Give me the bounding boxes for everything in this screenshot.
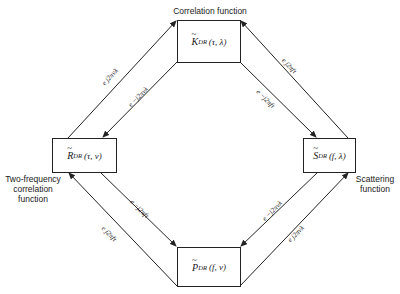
node-two-frequency-correlation: ~ R DR(τ, ν) xyxy=(52,138,117,173)
node-args: (f, λ) xyxy=(329,151,346,161)
node-subscript: DR xyxy=(198,264,207,271)
caption-line: function xyxy=(350,184,400,194)
node-scattering-function: ~ S DR(f, λ) xyxy=(303,138,356,173)
node-symbol: ~ K xyxy=(192,36,199,47)
node-p-dr: ~ P DR(f, ν) xyxy=(177,247,241,287)
node-subscript: DR xyxy=(73,152,82,159)
node-subscript: DR xyxy=(318,152,327,159)
node-symbol: ~ S xyxy=(313,150,318,161)
node-correlation-function: ~ K DR(τ, λ) xyxy=(177,20,241,63)
caption-line: Two-frequency xyxy=(2,174,64,184)
node-subscript: DR xyxy=(198,38,207,45)
tilde-mark: ~ xyxy=(192,29,197,39)
caption-scattering-function: Scattering function xyxy=(350,174,400,194)
caption-two-frequency-correlation-function: Two-frequency correlation function xyxy=(2,174,64,204)
edge-p-to-r xyxy=(69,173,177,286)
tilde-mark: ~ xyxy=(67,143,72,153)
caption-correlation-function: Correlation function xyxy=(160,6,260,16)
edge-k-to-s xyxy=(240,62,316,137)
caption-line: Scattering xyxy=(350,174,400,184)
caption-line: function xyxy=(2,194,64,204)
node-symbol: ~ P xyxy=(192,262,198,273)
node-symbol: ~ R xyxy=(67,150,73,161)
caption-line: correlation xyxy=(2,184,64,194)
tilde-mark: ~ xyxy=(192,255,197,265)
node-args: (τ, ν) xyxy=(84,151,102,161)
tilde-mark: ~ xyxy=(313,143,318,153)
node-args: (τ, λ) xyxy=(209,37,227,47)
node-args: (f, ν) xyxy=(209,262,226,272)
